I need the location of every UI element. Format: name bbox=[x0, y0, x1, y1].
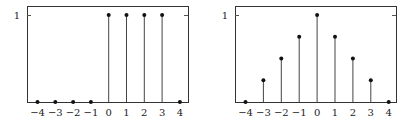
x-tick-label: −4 bbox=[30, 107, 45, 118]
y-tick-label: 1 bbox=[14, 10, 20, 21]
stem-marker bbox=[261, 78, 265, 82]
stem-marker bbox=[160, 13, 164, 17]
x-tick-label: 2 bbox=[141, 107, 147, 118]
stem-marker bbox=[71, 100, 75, 104]
x-tick-label: 1 bbox=[332, 107, 338, 118]
stem-marker bbox=[125, 13, 129, 17]
x-tick-label: −2 bbox=[66, 107, 81, 118]
x-tick-label: −2 bbox=[274, 107, 289, 118]
x-tick-label: 4 bbox=[177, 107, 183, 118]
stem-marker bbox=[178, 100, 182, 104]
stem-marker bbox=[142, 13, 146, 17]
plot-frame bbox=[236, 7, 397, 103]
stem-marker bbox=[244, 100, 248, 104]
x-tick-label: 3 bbox=[368, 107, 374, 118]
stem-marker bbox=[53, 100, 57, 104]
x-tick-label: 1 bbox=[123, 107, 129, 118]
x-tick-label: −1 bbox=[292, 107, 307, 118]
x-tick-label: 4 bbox=[386, 107, 392, 118]
x-tick-label: 0 bbox=[106, 107, 112, 118]
stem-marker bbox=[89, 100, 93, 104]
x-tick-label: −3 bbox=[256, 107, 271, 118]
stem-plots-figure: 1−4−3−2−1012341−4−3−2−101234 bbox=[0, 0, 413, 124]
x-tick-label: −4 bbox=[238, 107, 253, 118]
x-tick-label: 2 bbox=[350, 107, 356, 118]
stem-plot-2: 1−4−3−2−101234 bbox=[222, 7, 397, 119]
stem-marker bbox=[297, 35, 301, 39]
stem-marker bbox=[279, 57, 283, 61]
stem-marker bbox=[351, 57, 355, 61]
y-tick-label: 1 bbox=[222, 10, 228, 21]
plot-frame bbox=[28, 7, 189, 103]
stem-marker bbox=[36, 100, 40, 104]
stem-marker bbox=[107, 13, 111, 17]
stem-plot-1: 1−4−3−2−101234 bbox=[14, 7, 189, 119]
x-tick-label: −3 bbox=[48, 107, 63, 118]
x-tick-label: −1 bbox=[84, 107, 99, 118]
stem-marker bbox=[315, 13, 319, 17]
x-tick-label: 3 bbox=[159, 107, 165, 118]
x-tick-label: 0 bbox=[314, 107, 320, 118]
stem-marker bbox=[333, 35, 337, 39]
stem-marker bbox=[387, 100, 391, 104]
stem-marker bbox=[369, 78, 373, 82]
